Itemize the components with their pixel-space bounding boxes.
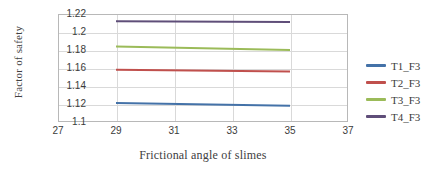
y-tick-label: 1.18 <box>46 45 86 55</box>
legend-item-label: T1_F3 <box>391 60 420 72</box>
legend-item-t4_f3[interactable]: T4_F3 <box>366 108 440 125</box>
legend-item-t3_f3[interactable]: T3_F3 <box>366 91 440 108</box>
legend-item-t1_f3[interactable]: T1_F3 <box>366 57 440 74</box>
y-tick-label: 1.22 <box>46 9 86 19</box>
x-tick-label: 35 <box>275 126 305 136</box>
series-layer <box>58 14 348 122</box>
chart-screenshot: Factor of safety 1.221.21.181.161.141.12… <box>0 0 440 172</box>
legend-item-label: T3_F3 <box>391 94 420 106</box>
legend-item-t2_f3[interactable]: T2_F3 <box>366 74 440 91</box>
legend-item-label: T4_F3 <box>391 111 420 123</box>
series-line-t4_f3 <box>116 21 290 22</box>
legend-swatch-icon <box>366 115 386 118</box>
x-axis-title: Frictional angle of slimes <box>58 148 348 163</box>
legend-swatch-icon <box>366 81 386 84</box>
y-tick-label: 1.12 <box>46 99 86 109</box>
legend-item-label: T2_F3 <box>391 77 420 89</box>
y-tick-label: 1.2 <box>46 27 86 37</box>
x-tick-label: 27 <box>43 126 73 136</box>
x-tick-label: 37 <box>333 126 363 136</box>
chart-legend: T1_F3T2_F3T3_F3T4_F3 <box>366 57 440 125</box>
legend-swatch-icon <box>366 98 386 101</box>
y-tick-label: 1.14 <box>46 81 86 91</box>
series-line-t2_f3 <box>116 70 290 72</box>
series-line-t1_f3 <box>116 103 290 106</box>
y-tick-label: 1.16 <box>46 63 86 73</box>
series-line-t3_f3 <box>116 46 290 50</box>
x-tick-label: 29 <box>101 126 131 136</box>
y-axis-title: Factor of safety <box>12 12 24 112</box>
x-tick-label: 33 <box>217 126 247 136</box>
x-tick-label: 31 <box>159 126 189 136</box>
legend-swatch-icon <box>366 64 386 67</box>
